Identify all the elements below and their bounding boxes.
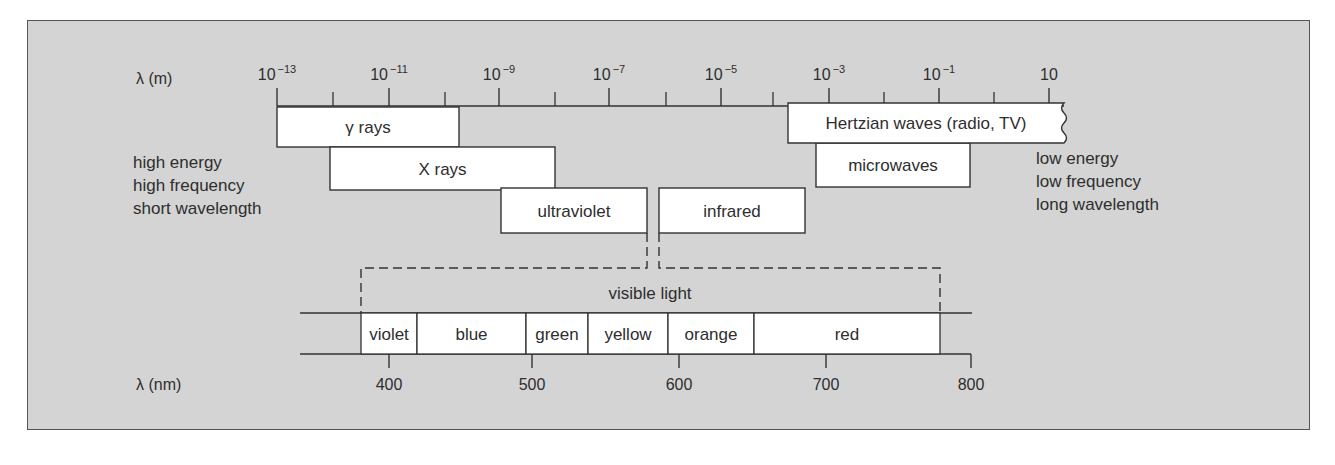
left-note-line: short wavelength <box>133 199 262 218</box>
band-label-hertzian: Hertzian waves (radio, TV) <box>826 114 1027 133</box>
top-tick-label: 10−5 <box>705 63 737 83</box>
color-label-yellow: yellow <box>604 325 652 344</box>
band-label-gamma: γ rays <box>345 118 390 137</box>
top-tick-label: 10 <box>1040 66 1058 83</box>
high-energy-note: high energyhigh frequencyshort wavelengt… <box>133 153 262 218</box>
band-label-infrared: infrared <box>703 202 761 221</box>
band-label-microwaves: microwaves <box>848 156 938 175</box>
band-label-ultraviolet: ultraviolet <box>538 202 611 221</box>
top-tick-label: 10−9 <box>483 63 515 83</box>
bottom-tick-label: 400 <box>376 376 403 393</box>
top-axis-ticks: 10−1310−1110−910−710−510−310−110 <box>258 63 1058 106</box>
top-tick-label: 10−13 <box>258 63 296 83</box>
top-axis-label: λ (m) <box>136 70 172 87</box>
bottom-axis-ticks: 400500600700800 <box>376 354 985 393</box>
low-energy-note: low energylow frequencylong wavelength <box>1036 149 1159 214</box>
visible-bracket-right <box>659 233 940 313</box>
visible-color-bands: violetbluegreenyelloworangered <box>361 313 940 354</box>
left-note-line: high frequency <box>133 176 245 195</box>
top-tick-label: 10−3 <box>813 63 845 83</box>
top-tick-label: 10−7 <box>593 63 625 83</box>
bottom-tick-label: 600 <box>666 376 693 393</box>
visible-light-label: visible light <box>608 284 691 303</box>
bottom-axis-label: λ (nm) <box>136 376 181 393</box>
spectrum-bands: γ raysX raysultravioletinfraredmicrowave… <box>277 103 1067 233</box>
right-note-line: low frequency <box>1036 172 1141 191</box>
bottom-tick-label: 500 <box>519 376 546 393</box>
visible-bracket-left <box>361 233 647 313</box>
color-label-red: red <box>835 325 860 344</box>
left-note-line: high energy <box>133 153 222 172</box>
top-tick-label: 10−1 <box>923 63 955 83</box>
em-spectrum-diagram: λ (m) λ (nm) 10−1310−1110−910−710−510−31… <box>0 0 1335 465</box>
color-label-green: green <box>535 325 578 344</box>
band-label-xray: X rays <box>418 160 466 179</box>
color-label-violet: violet <box>369 325 409 344</box>
color-label-orange: orange <box>685 325 738 344</box>
top-tick-label: 10−11 <box>370 63 408 83</box>
right-note-line: long wavelength <box>1036 195 1159 214</box>
bottom-tick-label: 700 <box>813 376 840 393</box>
right-note-line: low energy <box>1036 149 1119 168</box>
bottom-tick-label: 800 <box>958 376 985 393</box>
color-label-blue: blue <box>455 325 487 344</box>
